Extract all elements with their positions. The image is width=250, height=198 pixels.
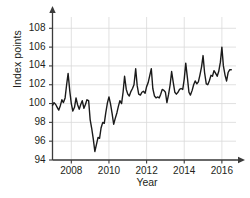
x-tick-label: 2014 <box>167 165 201 176</box>
x-tick-label: 2010 <box>92 165 126 176</box>
x-axis-title: Year <box>52 176 242 188</box>
x-tick-label: 2012 <box>130 165 164 176</box>
x-tick-label: 2016 <box>205 165 239 176</box>
y-tick-label: 94 <box>20 154 46 165</box>
chart-container: 949698100102104106108 200820102012201420… <box>0 0 250 198</box>
x-tick-label: 2008 <box>54 165 88 176</box>
y-tick-label: 98 <box>20 116 46 127</box>
y-axis-title-text: Index points <box>11 9 23 109</box>
y-axis-title: Index points <box>11 9 25 109</box>
y-tick-label: 96 <box>20 135 46 146</box>
